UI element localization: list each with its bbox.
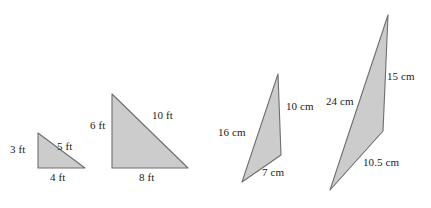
side-label-4ft: 4 ft xyxy=(50,172,65,183)
geometry-figure: 3 ft 5 ft 4 ft 6 ft 10 ft 8 ft 16 cm 10 … xyxy=(0,0,431,208)
side-label-7cm: 7 cm xyxy=(262,167,284,178)
side-label-8ft: 8 ft xyxy=(139,172,154,183)
side-label-3ft: 3 ft xyxy=(10,144,25,155)
side-label-10cm: 10 cm xyxy=(286,101,314,112)
side-label-15cm: 15 cm xyxy=(387,71,415,82)
side-label-16cm: 16 cm xyxy=(218,127,246,138)
triangle-2-shape xyxy=(112,94,188,168)
side-label-5ft: 5 ft xyxy=(57,141,72,152)
side-label-10.5cm: 10.5 cm xyxy=(363,157,399,168)
side-label-24cm: 24 cm xyxy=(326,96,354,107)
side-label-6ft: 6 ft xyxy=(90,120,105,131)
side-label-10ft: 10 ft xyxy=(152,110,173,121)
